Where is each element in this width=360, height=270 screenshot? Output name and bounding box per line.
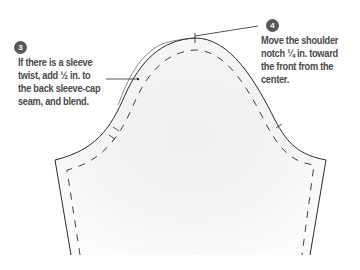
step-4-line: the front from the — [261, 60, 338, 73]
step-3-line: the back sleeve-cap — [18, 82, 100, 95]
step-3-instruction: If there is a sleeve twist, add ½ in. to… — [18, 56, 100, 108]
leader-line-step-4 — [195, 26, 258, 36]
step-3-line: seam, and blend. — [18, 95, 100, 108]
step-3-badge: 3 — [14, 41, 27, 54]
step-3-line: twist, add ½ in. to — [18, 69, 100, 82]
step-4-line: notch ¼ in. toward — [261, 47, 338, 60]
step-4-instruction: Move the shoulder notch ¼ in. toward the… — [261, 34, 338, 86]
step-4-line: center. — [261, 73, 338, 86]
step-4-line: Move the shoulder — [261, 34, 338, 47]
step-4-badge: 4 — [266, 19, 279, 32]
step-3-line: If there is a sleeve — [18, 56, 100, 69]
